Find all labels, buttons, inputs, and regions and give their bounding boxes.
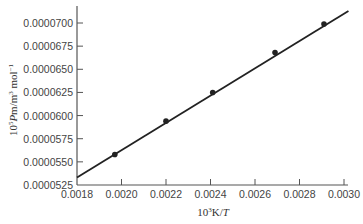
y-axis-ticks: 0.00005250.00005500.00005750.00006000.00… [23,17,83,191]
chart: 0.00005250.00005500.00005750.00006000.00… [0,0,363,224]
x-tick-label: 0.0018 [61,188,93,200]
x-axis-title: 103K/T [197,206,230,218]
data-point [112,152,118,158]
y-tick-label: 0.0000650 [23,63,73,75]
y-tick-label: 0.0000550 [23,156,73,168]
y-tick-label: 0.0000600 [23,110,73,122]
data-point [210,90,216,96]
data-point [272,50,278,56]
x-tick-label: 0.0030 [328,188,360,200]
y-tick-label: 0.0000700 [23,17,73,29]
y-tick-label: 0.0000575 [23,133,73,145]
x-axis-ticks: 0.00180.00200.00220.00240.00260.00280.00… [61,179,360,200]
x-tick-label: 0.0022 [150,188,182,200]
x-tick-label: 0.0024 [194,188,226,200]
x-tick-label: 0.0028 [283,188,315,200]
y-axis-title: 105Pm/m3 mol−1 [7,63,19,136]
data-point [163,118,169,124]
x-tick-label: 0.0020 [105,188,137,200]
data-point [321,21,327,27]
x-tick-label: 0.0026 [239,188,271,200]
y-tick-label: 0.0000675 [23,40,73,52]
y-tick-label: 0.0000625 [23,86,73,98]
